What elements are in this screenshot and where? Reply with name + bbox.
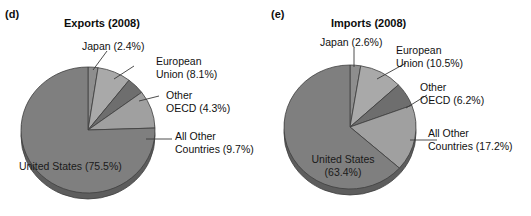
label-all-other-imports-line1: All Other: [428, 127, 513, 140]
label-eu-exports-line1: European: [156, 55, 217, 68]
label-all-other-exports-line2: Countries (9.7%): [175, 143, 254, 156]
label-eu-exports: European Union (8.1%): [156, 55, 217, 80]
label-united-states-imports-line1: United States: [293, 153, 393, 166]
pie-slices-exports-geometry: [21, 67, 155, 193]
label-united-states-exports: United States (75.5%): [19, 160, 122, 173]
label-other-oecd-imports-line2: OECD (6.2%): [420, 94, 484, 107]
label-all-other-exports-line1: All Other: [175, 130, 254, 143]
label-other-oecd-imports-line1: Other: [420, 81, 484, 94]
label-other-oecd-exports-line2: OECD (4.3%): [166, 102, 230, 115]
label-japan-exports: Japan (2.4%): [82, 40, 144, 53]
label-all-other-exports: All Other Countries (9.7%): [175, 130, 254, 155]
pie-chart-imports: [265, 0, 531, 216]
label-united-states-imports: United States (63.4%): [293, 153, 393, 178]
label-all-other-imports-line2: Countries (17.2%): [428, 140, 513, 153]
label-united-states-imports-line2: (63.4%): [293, 166, 393, 179]
label-eu-exports-line2: Union (8.1%): [156, 68, 217, 81]
label-all-other-imports: All Other Countries (17.2%): [428, 127, 513, 152]
panel-imports: (e) Imports (2008) Japan (2.6%): [265, 0, 531, 216]
label-other-oecd-exports-line1: Other: [166, 89, 230, 102]
panel-exports: (d) Exports (2008): [0, 0, 265, 216]
figure-two-pie-charts: (d) Exports (2008): [0, 0, 531, 216]
label-eu-imports-line2: Union (10.5%): [396, 57, 463, 70]
label-eu-imports-line1: European: [396, 44, 463, 57]
label-eu-imports: European Union (10.5%): [396, 44, 463, 69]
label-japan-imports: Japan (2.6%): [320, 36, 382, 49]
label-other-oecd-imports: Other OECD (6.2%): [420, 81, 484, 106]
label-other-oecd-exports: Other OECD (4.3%): [166, 89, 230, 114]
